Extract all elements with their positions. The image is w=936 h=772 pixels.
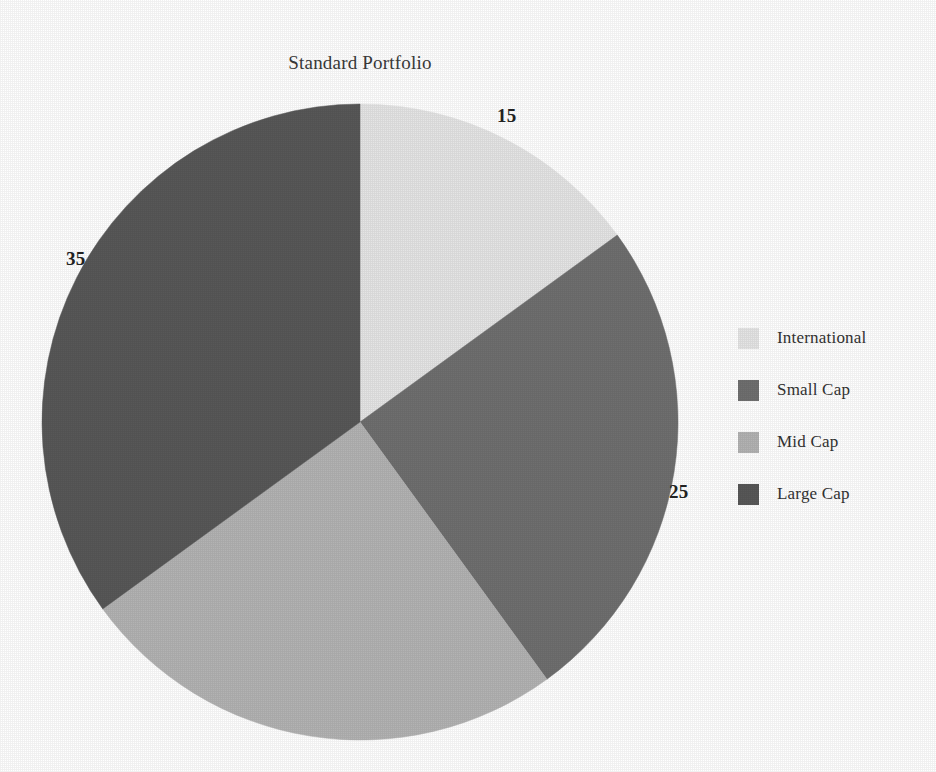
- pie-plot-area: [40, 102, 680, 742]
- legend-item-label: Mid Cap: [777, 432, 838, 452]
- legend-item-label: Large Cap: [777, 484, 850, 504]
- pie-svg: [40, 102, 680, 742]
- legend-item-label: International: [777, 328, 866, 348]
- pie-slice-group: [42, 104, 678, 740]
- value-label-large-cap: 35: [66, 248, 86, 270]
- legend-item[interactable]: International: [738, 326, 928, 350]
- legend-swatch-icon: [738, 432, 759, 453]
- value-label-international: 15: [497, 105, 517, 127]
- legend-swatch-icon: [738, 328, 759, 349]
- chart-legend: InternationalSmall CapMid CapLarge Cap: [738, 326, 928, 506]
- pie-chart-figure: Standard Portfolio 15 25 35 Internationa…: [0, 0, 936, 772]
- legend-swatch-icon: [738, 380, 759, 401]
- value-label-small-cap: 25: [669, 481, 689, 503]
- legend-swatch-icon: [738, 484, 759, 505]
- legend-item[interactable]: Mid Cap: [738, 430, 928, 454]
- chart-title: Standard Portfolio: [0, 52, 720, 74]
- legend-item[interactable]: Large Cap: [738, 482, 928, 506]
- legend-item-label: Small Cap: [777, 380, 850, 400]
- legend-item[interactable]: Small Cap: [738, 378, 928, 402]
